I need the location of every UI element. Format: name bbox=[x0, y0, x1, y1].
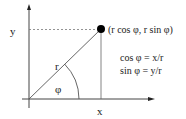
polar-coordinates-diagram: y x r φ (r cos φ, r sin φ) cos φ = x/r s… bbox=[0, 0, 186, 119]
equation-sin: sin φ = y/r bbox=[120, 65, 162, 76]
y-axis bbox=[27, 4, 31, 108]
point-label: (r cos φ, r sin φ) bbox=[108, 24, 173, 36]
angle-arc bbox=[65, 64, 80, 99]
radius-label: r bbox=[55, 60, 59, 72]
x-axis-arrow-icon bbox=[148, 97, 155, 101]
y-axis-arrow-icon bbox=[27, 4, 31, 10]
equation-cos: cos φ = x/r bbox=[120, 52, 164, 63]
x-axis-label: x bbox=[97, 105, 103, 117]
x-axis bbox=[22, 97, 155, 101]
point-marker bbox=[97, 25, 105, 33]
y-axis-label: y bbox=[10, 25, 16, 37]
angle-label: φ bbox=[55, 83, 61, 95]
